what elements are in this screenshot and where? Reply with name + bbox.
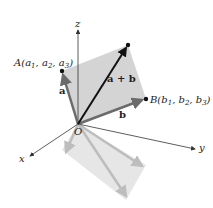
vector-a-label: a bbox=[59, 86, 65, 96]
point-A-label: A(a1, a2, a3) bbox=[14, 58, 73, 70]
y-axis-label: y bbox=[199, 143, 205, 153]
x-axis-label: x bbox=[19, 154, 25, 164]
vector-b-label: b bbox=[119, 110, 126, 120]
z-axis-label: z bbox=[75, 19, 80, 29]
origin-label: O bbox=[74, 127, 82, 137]
vector-sum-label: a + b bbox=[107, 74, 136, 84]
point-sum bbox=[126, 43, 130, 47]
point-B bbox=[144, 97, 148, 101]
point-B-label: B(b1, b2, b3) bbox=[150, 95, 211, 107]
vector-addition-figure: z x y O A(a1, a2, a3) B(b1, b2, b3) a a … bbox=[0, 0, 213, 208]
